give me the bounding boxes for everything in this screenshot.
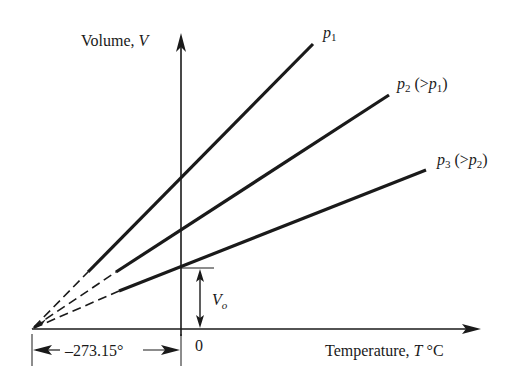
line-p3: [34, 170, 426, 328]
x-axis: [32, 324, 481, 334]
label-p1: p1: [322, 24, 337, 43]
absolute-zero-label: –273.15°: [64, 342, 123, 359]
origin-zero-label: 0: [195, 337, 203, 354]
y-axis: [176, 33, 186, 336]
volume-temperature-diagram: Volume, V Temperature, T °C 0 –273.15° V…: [0, 0, 530, 383]
absolute-zero-point-icon: [31, 319, 46, 329]
label-p2: p2 (>p1): [396, 75, 448, 94]
line-p1: [34, 44, 313, 327]
intercept-dimension: [181, 268, 214, 328]
y-axis-label: Volume, V: [81, 32, 150, 49]
label-p3: p3 (>p2): [436, 151, 488, 170]
x-axis-label: Temperature, T °C: [325, 342, 444, 360]
intercept-label: Vo: [212, 291, 228, 311]
